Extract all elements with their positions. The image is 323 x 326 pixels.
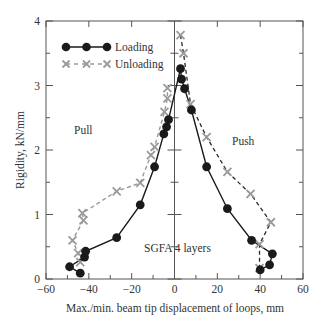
x-axis-label: Max./min. beam tip displacement of loops… <box>66 302 284 315</box>
y-axis-label: Rigidity, kN/mm <box>14 111 27 189</box>
legend: Loading Unloading <box>62 41 164 71</box>
x-tick-label: −40 <box>80 283 98 295</box>
x-tick-label: 0 <box>172 283 178 295</box>
y-tick-label: 0 <box>34 273 40 285</box>
unloading-marker <box>69 236 77 244</box>
series-layer <box>65 31 277 277</box>
loading-marker <box>164 115 173 124</box>
loading-marker <box>202 162 211 171</box>
legend-loading-label: Loading <box>115 41 154 54</box>
unloading-marker <box>163 84 171 92</box>
loading-marker <box>65 262 74 271</box>
legend-loading-marker <box>82 43 91 52</box>
loading-marker <box>81 247 90 256</box>
loading-marker <box>268 249 277 258</box>
x-tick-label: 60 <box>297 283 309 295</box>
legend-loading-marker <box>103 43 112 52</box>
loading-marker <box>223 204 232 213</box>
unloading-marker <box>223 168 231 176</box>
unloading-marker <box>247 190 255 198</box>
loading-marker <box>136 200 145 209</box>
pull-label: Pull <box>74 124 93 136</box>
x-tick-label: 40 <box>254 283 266 295</box>
rigidity-chart: −60−40−20020406001234 Loading Unloading … <box>0 0 323 326</box>
loading-marker <box>112 233 121 242</box>
unloading-marker <box>136 179 144 187</box>
unloading-marker <box>113 187 121 195</box>
loading-marker <box>265 260 274 269</box>
unloading-marker <box>79 216 87 224</box>
unloading-line-right <box>180 35 270 268</box>
specimen-label: SGFA 4 layers <box>144 242 211 255</box>
y-tick-label: 2 <box>34 144 40 156</box>
x-tick-label: −20 <box>123 283 141 295</box>
y-tick-label: 1 <box>34 209 40 221</box>
loading-marker <box>176 64 185 73</box>
y-tick-label: 3 <box>34 80 40 92</box>
x-tick-label: 20 <box>212 283 224 295</box>
unloading-marker <box>203 133 211 141</box>
push-label: Push <box>232 135 255 147</box>
unloading-marker <box>151 143 159 151</box>
loading-marker <box>76 269 85 278</box>
legend-loading-marker <box>62 43 71 52</box>
y-tick-label: 4 <box>34 15 40 27</box>
loading-marker <box>247 236 256 245</box>
unloading-marker <box>267 218 275 226</box>
loading-marker <box>256 266 265 275</box>
loading-marker <box>177 75 186 84</box>
legend-unloading-label: Unloading <box>115 58 164 71</box>
loading-marker <box>187 106 196 115</box>
unloading-marker <box>147 151 155 159</box>
loading-marker <box>150 162 159 171</box>
loading-marker <box>180 84 189 93</box>
